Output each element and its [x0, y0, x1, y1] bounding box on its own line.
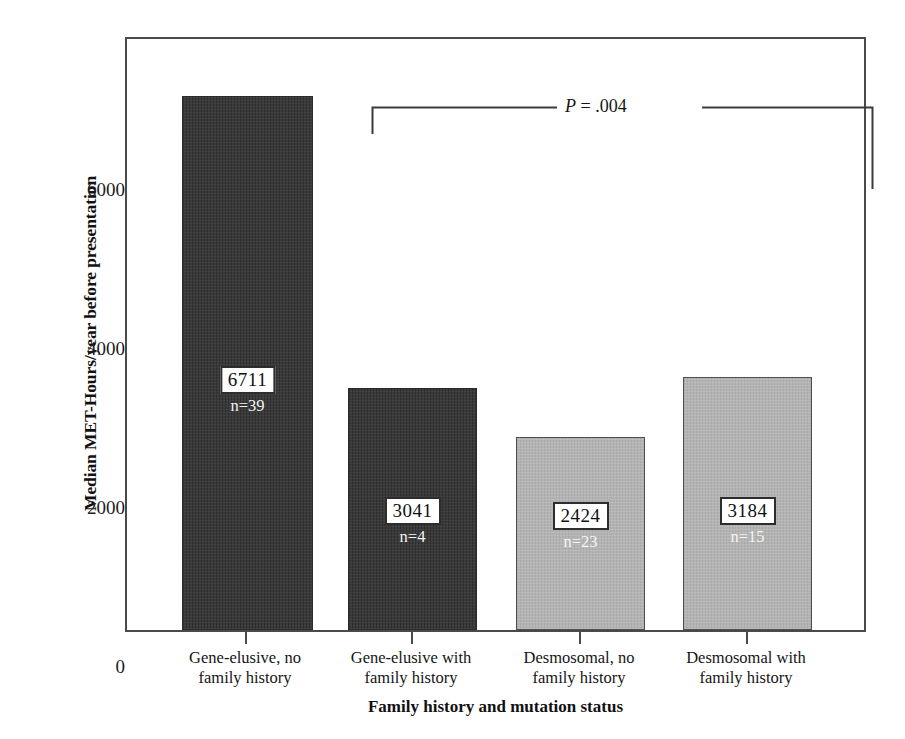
x-label-desmosomal-no-family-history: Desmosomal, no family history: [484, 648, 674, 688]
y-tick-label-0: 0: [55, 656, 125, 678]
x-tick-mark-2: [411, 632, 413, 644]
x-axis-category-labels: Gene-elusive, no family history Gene-elu…: [125, 648, 866, 700]
bar-n-label-3: n=23: [563, 533, 597, 551]
x-label-line-1: Gene-elusive, no: [150, 648, 340, 668]
x-axis-tick-marks: [125, 632, 866, 646]
bar-value-label-2: 3041: [385, 497, 441, 525]
bar-n-label-4: n=15: [730, 528, 764, 546]
y-tick-label-6000: 6000: [55, 179, 125, 201]
significance-p-value-label: P = .004: [565, 96, 627, 117]
bar-desmosomal-with-family-history[interactable]: 3184 n=15: [683, 377, 812, 630]
plot-area: 6711 n=39 3041 n=4 2424 n=23 3184 n=15 P…: [125, 37, 866, 632]
y-axis-tick-labels: 0 2000 4000 6000: [48, 37, 125, 632]
p-symbol: P: [565, 96, 576, 116]
bar-value-label-1: 6711: [220, 366, 275, 394]
x-label-line-2: family history: [484, 668, 674, 688]
bar-value-label-4: 3184: [720, 497, 776, 525]
y-tick-label-2000: 2000: [55, 497, 125, 519]
bar-chart-figure: Median MET-Hours/year before presentatio…: [0, 0, 905, 739]
bar-gene-elusive-with-family-history[interactable]: 3041 n=4: [348, 388, 477, 630]
x-label-line-1: Desmosomal with: [651, 648, 841, 668]
y-tick-label-4000: 4000: [55, 338, 125, 360]
bar-gene-elusive-no-family-history[interactable]: 6711 n=39: [182, 96, 313, 630]
x-label-gene-elusive-with-family-history: Gene-elusive with family history: [316, 648, 506, 688]
bar-n-label-2: n=4: [400, 528, 426, 546]
x-tick-mark-1: [245, 632, 247, 644]
bar-n-label-1: n=39: [230, 397, 264, 415]
bar-desmosomal-no-family-history[interactable]: 2424 n=23: [516, 437, 645, 630]
x-label-desmosomal-with-family-history: Desmosomal with family history: [651, 648, 841, 688]
x-tick-mark-3: [579, 632, 581, 644]
x-label-line-2: family history: [316, 668, 506, 688]
x-label-line-2: family history: [150, 668, 340, 688]
x-label-gene-elusive-no-family-history: Gene-elusive, no family history: [150, 648, 340, 688]
x-label-line-1: Desmosomal, no: [484, 648, 674, 668]
x-tick-mark-4: [746, 632, 748, 644]
x-label-line-2: family history: [651, 668, 841, 688]
x-label-line-1: Gene-elusive with: [316, 648, 506, 668]
bar-value-label-3: 2424: [553, 502, 609, 530]
p-value-text: = .004: [576, 96, 627, 116]
x-axis-title: Family history and mutation status: [125, 697, 866, 717]
